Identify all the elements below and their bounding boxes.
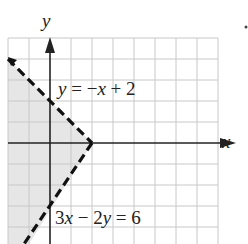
line-2-label: 3x − 2y = 6 (55, 207, 141, 228)
y-axis-label: y (40, 10, 51, 31)
x-axis-label: x (221, 131, 231, 152)
y-axis-arrow-icon (45, 37, 55, 53)
line-1-label: y = −x + 2 (56, 78, 136, 99)
inequality-graph: y x y = −x + 2 3x − 2y = 6 (0, 0, 248, 244)
stray-mark (245, 26, 248, 29)
